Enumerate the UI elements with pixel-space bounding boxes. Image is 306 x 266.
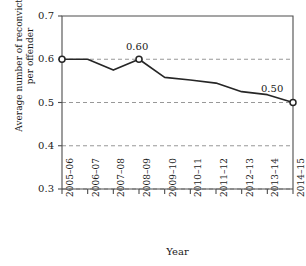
- plot-area: [0, 0, 306, 266]
- data-series-line: [62, 59, 293, 102]
- data-point-marker: [290, 100, 296, 106]
- data-point-marker: [136, 56, 142, 62]
- x-axis-label: Year: [62, 246, 293, 257]
- data-point-marker: [59, 56, 65, 62]
- reconvictions-line-chart: Average number of reconvictions per offe…: [0, 0, 306, 266]
